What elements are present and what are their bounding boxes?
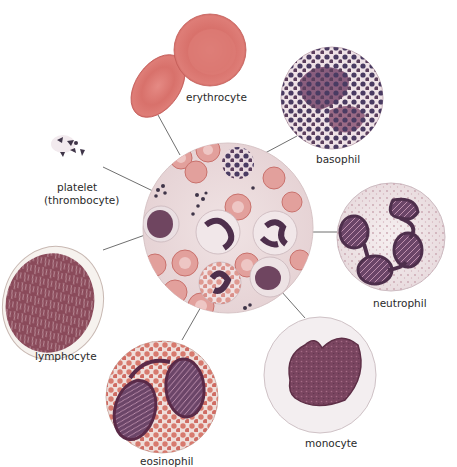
neutrophil-illustration [337, 183, 445, 291]
eosinophil-illustration [106, 341, 218, 453]
label-thrombocyte: (thrombocyte) [44, 194, 119, 206]
label-basophil: basophil [316, 153, 360, 165]
label-erythrocyte: erythrocyte [186, 91, 247, 103]
label-lymphocyte: lymphocyte [35, 350, 97, 362]
platelet-illustration [51, 135, 85, 157]
label-platelet: platelet [57, 181, 97, 193]
label-monocyte: monocyte [305, 437, 357, 449]
erythrocyte-illustration [120, 14, 246, 127]
label-neutrophil: neutrophil [373, 297, 427, 309]
blood-smear-illustration [143, 138, 313, 320]
blood-cell-diagram: erythrocyte basophil platelet (thrombocy… [0, 0, 457, 467]
monocyte-illustration [264, 317, 376, 433]
label-eosinophil: eosinophil [140, 455, 194, 467]
basophil-illustration [281, 47, 383, 149]
